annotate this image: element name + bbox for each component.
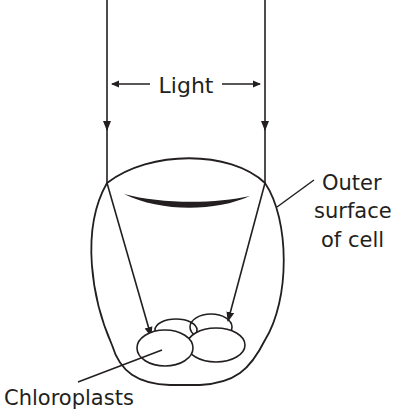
right-refracted-ray: [228, 183, 265, 321]
chloroplasts-annotation: Chloroplasts: [4, 350, 162, 410]
chloroplasts: [137, 314, 245, 366]
light-cell-diagram: Light Outer surface of cell Chloroplasts: [0, 0, 416, 418]
outer-surface-label-line3: of cell: [321, 228, 384, 252]
outer-surface-label-line1: Outer: [322, 171, 382, 195]
left-refracted-ray: [107, 183, 151, 336]
outer-surface-annotation: Outer surface of cell: [277, 171, 392, 252]
chloroplast-front-right: [187, 328, 245, 362]
chloroplasts-leader: [78, 350, 162, 382]
light-label: Light: [159, 73, 214, 98]
chloroplast-front-left: [137, 330, 193, 366]
lens-crescent: [124, 194, 250, 208]
outer-surface-label-line2: surface: [314, 199, 392, 223]
chloroplasts-label: Chloroplasts: [4, 386, 134, 410]
outer-surface-leader: [277, 180, 314, 207]
light-width-indicator: Light: [112, 73, 260, 98]
